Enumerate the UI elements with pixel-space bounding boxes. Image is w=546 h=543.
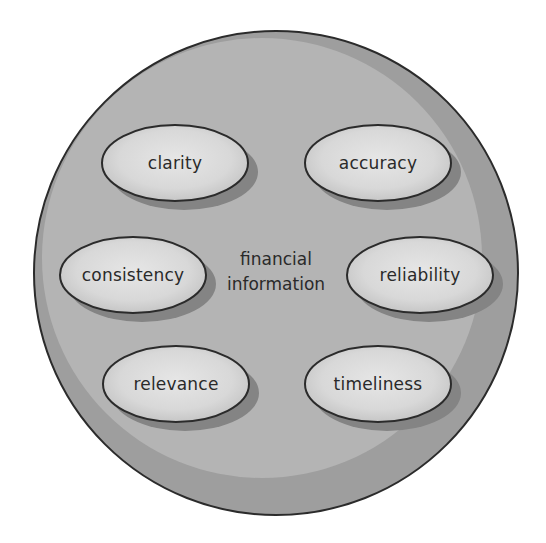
center-label-line1: financial xyxy=(227,247,325,272)
quality-label-clarity: clarity xyxy=(148,155,202,172)
center-label: financial information xyxy=(227,247,325,297)
quality-label-consistency: consistency xyxy=(82,267,184,284)
center-label-line2: information xyxy=(227,272,325,297)
quality-label-reliability: reliability xyxy=(380,267,461,284)
quality-label-relevance: relevance xyxy=(133,376,218,393)
quality-label-timeliness: timeliness xyxy=(334,376,423,393)
financial-information-diagram: financial information clarity accuracy c… xyxy=(0,0,546,543)
quality-label-accuracy: accuracy xyxy=(339,155,417,172)
